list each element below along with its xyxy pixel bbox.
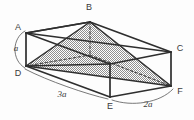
measure-label-2a: 2a <box>144 99 154 109</box>
measure-label-3a: 3a <box>57 89 68 99</box>
geometry-figure: A B C D E F a 3a 2a <box>0 0 194 120</box>
vertex-label-E: E <box>107 101 113 111</box>
vertex-label-C: C <box>177 43 184 53</box>
vertex-label-B: B <box>86 2 92 12</box>
vertex-label-F: F <box>177 86 183 96</box>
vertex-label-A: A <box>15 22 21 32</box>
measure-label-a: a <box>14 43 19 53</box>
figure-canvas: A B C D E F a 3a 2a <box>0 0 194 120</box>
vertex-label-D: D <box>15 68 22 78</box>
